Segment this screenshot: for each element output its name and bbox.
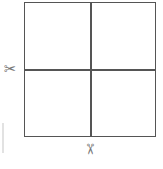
scissors-icon: ✂ xyxy=(82,143,97,156)
scissors-icon: ✂ xyxy=(4,62,17,77)
scroll-edge xyxy=(2,123,4,153)
vertical-cut-line xyxy=(90,2,92,137)
